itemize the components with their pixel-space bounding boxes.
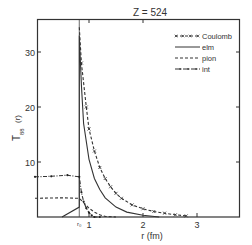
dot-marker — [83, 201, 85, 203]
dot-marker — [78, 176, 80, 178]
x-marker — [104, 177, 107, 180]
x-marker — [109, 185, 112, 188]
chart-title: Z = 524 — [133, 7, 168, 18]
y-axis-label: T 88 (r) — [11, 115, 25, 141]
x-tick-label: 3 — [194, 220, 199, 230]
dot-marker — [80, 191, 82, 193]
dot-marker — [34, 176, 36, 178]
dot-marker — [99, 216, 101, 218]
y-tick-label: 20 — [25, 103, 35, 113]
chart: 102030123r₀ Coulombelmpionint Z = 524 r … — [0, 0, 252, 245]
dot-marker — [85, 207, 87, 209]
r0-label: r₀ — [77, 221, 82, 227]
y-tick-label: 30 — [25, 48, 35, 58]
dot-marker — [93, 216, 95, 218]
legend-label: pion — [202, 54, 216, 63]
x-axis-label: r (fm) — [141, 231, 163, 241]
legend-label: int — [202, 65, 211, 74]
legend-label: elm — [202, 43, 214, 52]
series-coulomb — [79, 27, 186, 216]
x-tick-label: 1 — [86, 220, 91, 230]
dot-marker — [66, 174, 68, 176]
series-pion — [35, 198, 116, 217]
series-int — [35, 175, 100, 217]
dot-marker — [50, 175, 52, 177]
y-tick-label: 10 — [25, 158, 35, 168]
legend-label: Coulomb — [202, 32, 232, 41]
plot-curves — [34, 27, 188, 218]
dot-marker — [88, 212, 90, 214]
x-tick-label: 2 — [140, 220, 145, 230]
y-axis-label-arg: (r) — [13, 115, 22, 123]
y-axis-label-sub: 88 — [19, 128, 25, 135]
x-marker — [115, 192, 118, 195]
legend: Coulombelmpionint — [175, 32, 232, 74]
dot-marker — [91, 214, 93, 216]
series-elm — [62, 36, 159, 218]
